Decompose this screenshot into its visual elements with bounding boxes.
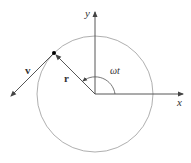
velocity-vector (11, 53, 54, 96)
y-axis-label: y (84, 7, 90, 19)
angle-label: ωt (110, 65, 120, 76)
position-vector (56, 55, 95, 94)
velocity-vector-label: v (25, 64, 31, 76)
circular-motion-diagram: y x r v ωt (0, 0, 191, 163)
x-axis-label: x (176, 96, 182, 108)
angle-arc (83, 77, 115, 94)
position-vector-label: r (64, 72, 69, 84)
particle-point (52, 51, 56, 55)
